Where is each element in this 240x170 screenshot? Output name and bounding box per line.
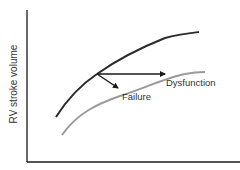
failure-arrow <box>97 74 118 88</box>
dysfunction-label: Dysfunction <box>166 77 216 88</box>
y-axis-label: RV stroke volume <box>8 44 19 123</box>
failure-label: Failure <box>122 91 151 102</box>
ventricular-function-diagram: RV stroke volume Dysfunction Failure <box>0 0 240 170</box>
